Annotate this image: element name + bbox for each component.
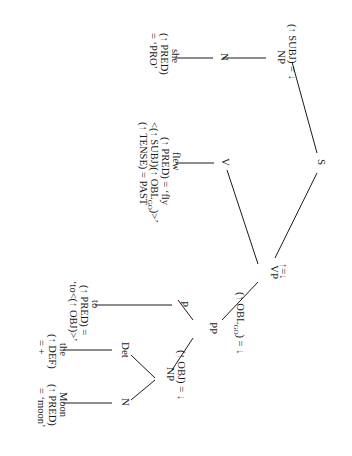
node-pp-annotation-sub: GO [232, 324, 240, 334]
edge-np-n2 [131, 380, 155, 400]
node-n-she: N [219, 53, 231, 61]
leaf-moon-value: = ‘moon’ [36, 388, 47, 427]
leaf-flew-args-post: )>’ [148, 210, 160, 223]
node-np-obj: NP [165, 367, 177, 381]
leaf-she-word: she [170, 49, 181, 63]
edge-vp-v [227, 170, 258, 264]
syntax-tree: S (↑ SUBJ) = ↓ NP N she (↑ PRED) = ‘PRO’… [0, 0, 352, 456]
node-pp-annotation-post: ) = ↓ [234, 335, 246, 355]
node-vp: VP [269, 265, 281, 279]
leaf-to-value: ‘to<(↑ OBJ)>’ [67, 281, 79, 342]
node-p: P [179, 301, 191, 307]
leaf-the-value: = + [36, 340, 47, 355]
leaf-the-word: the [58, 343, 69, 356]
node-pp-annotation-pre: (↑ OBL [234, 292, 246, 324]
node-n-moon: N [120, 398, 132, 406]
node-v: V [220, 158, 232, 166]
node-det: Det [120, 342, 132, 358]
node-np-subj: NP [276, 50, 288, 64]
leaf-moon-word: Moon [58, 392, 69, 418]
edge-s-vp [275, 173, 317, 258]
node-pp: PP [208, 322, 220, 334]
leaf-flew-word: flew [171, 152, 182, 171]
leaf-to-word: to [90, 300, 101, 308]
leaf-she-value: = ‘PRO’ [148, 33, 159, 69]
leaf-flew-tense: (↑ TENSE) = PAST [137, 122, 149, 206]
node-s: S [316, 159, 328, 165]
node-pp-annotation: (↑ OBLGO) = ↓ [232, 292, 246, 354]
edge-np-det [131, 355, 155, 378]
